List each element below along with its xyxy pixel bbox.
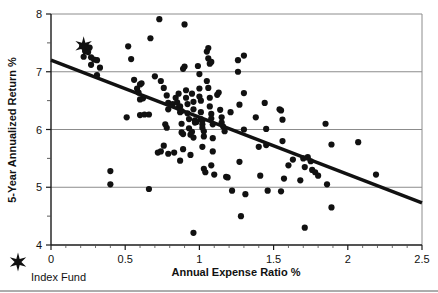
scatter-point	[263, 126, 269, 132]
y-tick-label-8: 8	[36, 8, 42, 20]
scatter-point	[256, 144, 262, 150]
scatter-point	[225, 174, 231, 180]
scatter-point	[178, 121, 184, 127]
scatter-point	[187, 152, 193, 158]
scatter-point	[107, 181, 113, 187]
scatter-point	[183, 95, 189, 101]
scatter-point	[155, 150, 161, 156]
scatter-point	[189, 91, 195, 97]
scatter-point	[171, 150, 177, 156]
scatter-point	[176, 91, 182, 97]
scatter-point	[236, 102, 242, 108]
scatter-point	[189, 129, 195, 135]
scatter-point	[195, 63, 201, 69]
scatter-point	[107, 168, 113, 174]
x-tick-label-2.5: 2.5	[414, 253, 429, 265]
y-tick-label-5: 5	[36, 181, 42, 193]
scatter-point	[253, 114, 259, 120]
scatter-point	[210, 135, 216, 141]
scatter-point	[124, 114, 130, 120]
scatter-point	[97, 65, 103, 71]
scatter-point	[196, 85, 202, 91]
scatter-point	[285, 162, 291, 168]
scatter-point	[235, 69, 241, 75]
scatter-point	[164, 125, 170, 131]
scatter-point	[196, 71, 202, 77]
scatter-point	[257, 173, 263, 179]
scatter-point	[190, 134, 196, 140]
scatter-point	[241, 126, 247, 132]
scatter-point	[147, 35, 153, 41]
scatter-point	[156, 16, 162, 22]
y-axis-title: 5-Year Annualized Return %	[6, 57, 18, 203]
chart-background	[0, 0, 438, 293]
scatter-point	[88, 62, 94, 68]
x-tick-label-0: 0	[48, 253, 54, 265]
scatter-point	[205, 85, 211, 91]
scatter-point	[324, 181, 330, 187]
scatter-point	[152, 73, 158, 79]
scatter-point	[265, 188, 271, 194]
scatter-point	[198, 98, 204, 104]
scatter-point	[279, 117, 285, 123]
scatter-point	[204, 78, 210, 84]
scatter-point	[208, 162, 214, 168]
scatter-point	[180, 131, 186, 137]
scatter-chart-figure: 00.511.522.5 45678 Annual Expense Ratio …	[0, 0, 438, 293]
scatter-point	[241, 90, 247, 96]
scatter-point	[164, 92, 170, 98]
x-tick-label-1: 1	[196, 253, 202, 265]
scatter-point	[227, 109, 233, 115]
scatter-point	[131, 77, 137, 83]
y-tick-label-4: 4	[36, 239, 42, 251]
scatter-point	[205, 45, 211, 51]
scatter-point	[146, 111, 152, 117]
scatter-point	[208, 59, 214, 65]
scatter-point	[146, 186, 152, 192]
scatter-point	[290, 156, 296, 162]
scatter-point	[128, 56, 134, 62]
scatter-point	[262, 100, 268, 106]
scatter-point	[181, 21, 187, 27]
scatter-point	[186, 116, 192, 122]
scatter-point	[190, 230, 196, 236]
scatter-point	[235, 57, 241, 63]
scatter-point	[201, 133, 207, 139]
scatter-point	[161, 143, 167, 149]
x-axis-title: Annual Expense Ratio %	[172, 266, 301, 278]
scatter-point	[328, 141, 334, 147]
scatter-point	[184, 101, 190, 107]
legend-label-index-fund: Index Fund	[31, 271, 86, 283]
chart-svg: 00.511.522.5 45678 Annual Expense Ratio …	[0, 0, 438, 293]
y-tick-label-7: 7	[36, 66, 42, 78]
scatter-point	[373, 171, 379, 177]
scatter-point	[207, 103, 213, 109]
scatter-point	[183, 87, 189, 93]
scatter-point	[355, 139, 361, 145]
scatter-point	[328, 204, 334, 210]
scatter-point	[158, 78, 164, 84]
scatter-point	[199, 144, 205, 150]
scatter-point	[190, 99, 196, 105]
scatter-point	[279, 138, 285, 144]
scatter-point	[242, 191, 248, 197]
x-tick-label-0.5: 0.5	[118, 253, 133, 265]
scatter-point	[202, 169, 208, 175]
scatter-point	[177, 158, 183, 164]
scatter-point	[278, 188, 284, 194]
scatter-point	[198, 109, 204, 115]
scatter-point	[125, 43, 131, 49]
scatter-point	[180, 146, 186, 152]
scatter-point	[180, 66, 186, 72]
scatter-point	[190, 106, 196, 112]
scatter-point	[229, 188, 235, 194]
scatter-point	[315, 173, 321, 179]
scatter-point	[302, 164, 308, 170]
scatter-point	[236, 159, 242, 165]
y-tick-label-6: 6	[36, 124, 42, 136]
scatter-point	[165, 151, 171, 157]
scatter-point	[278, 107, 284, 113]
scatter-point	[322, 121, 328, 127]
scatter-point	[207, 95, 213, 101]
scatter-point	[216, 89, 222, 95]
